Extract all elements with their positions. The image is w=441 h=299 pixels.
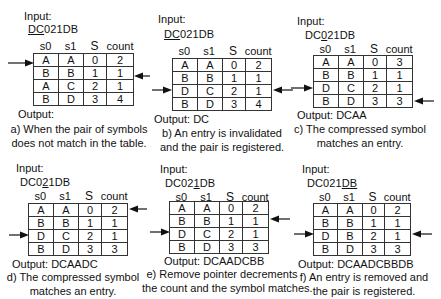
input-string: DC021DB xyxy=(165,177,215,189)
table-row: DC21 xyxy=(170,228,269,241)
table-row: BB11 xyxy=(314,217,411,230)
input-label: Input: xyxy=(160,163,188,175)
table-header: s0 s1 S count xyxy=(172,45,272,57)
caption: a) When the pair of symbols does not mat… xyxy=(8,122,150,150)
table-row: DB21 xyxy=(314,230,411,243)
caption: b) An entry is invalidated and the pair … xyxy=(160,126,284,154)
table-row: BD34 xyxy=(34,93,134,106)
input-label: Input: xyxy=(302,163,330,175)
output-label: Output: DCAADCBBDB xyxy=(298,258,414,270)
table-row: AA02 xyxy=(29,204,128,217)
table-header: s0 s1 S count xyxy=(313,191,411,203)
dictionary-table: AA02 BB11 DC21 BD33 xyxy=(169,201,269,254)
input-current-pair: DC xyxy=(28,23,44,35)
table-row: BD33 xyxy=(170,241,269,254)
input-label: Input: xyxy=(24,10,52,22)
input-string: DC021DB xyxy=(164,28,214,40)
input-string: DC021DB xyxy=(305,29,355,41)
table-row: BD33 xyxy=(314,95,413,108)
table-row: BD33 xyxy=(29,243,128,256)
col-S: S xyxy=(83,40,106,52)
table-row: AA02 xyxy=(173,59,272,72)
col-s1: s1 xyxy=(58,40,83,52)
input-string: DC021DB xyxy=(28,23,78,35)
input-label: Input: xyxy=(16,162,44,174)
table-row: BD33 xyxy=(314,243,411,256)
table-row: DC21 xyxy=(314,82,413,95)
caption: d) The compressed symbol matches an entr… xyxy=(2,270,144,298)
input-current-pair: DB xyxy=(342,177,357,189)
dictionary-table: AA03 BB11 DC21 BD33 xyxy=(313,55,413,108)
table-row: BB11 xyxy=(29,217,128,230)
caption: f) An entry is removed and the pair is r… xyxy=(296,270,432,298)
table-row: DC21 xyxy=(29,230,128,243)
table-header: s0 s1 S count xyxy=(33,40,134,52)
col-s0: s0 xyxy=(33,40,58,52)
output-label: Output: DCAA xyxy=(297,109,367,121)
col-count: count xyxy=(106,40,134,52)
table-row: BB11 xyxy=(170,215,269,228)
dictionary-table: AA02 BB11 DB21 BD33 xyxy=(313,203,411,256)
output-label: Output: DCAADC xyxy=(12,258,98,270)
table-row: BD34 xyxy=(173,98,272,111)
table-row: AA02 xyxy=(170,202,269,215)
input-label: Input: xyxy=(158,13,186,25)
caption: c) The compressed symbol matches an entr… xyxy=(291,122,429,150)
caption: e) Remove pointer decrements the count a… xyxy=(142,267,302,295)
table-row: BB11 xyxy=(314,69,413,82)
table-row: AA03 xyxy=(314,56,413,69)
table-row: AA02 xyxy=(314,204,411,217)
input-current-pair: DC xyxy=(164,28,180,40)
table-row: AC21 xyxy=(34,80,134,93)
table-row: DC21 xyxy=(173,85,272,98)
output-label: Output: xyxy=(18,108,54,120)
table-header: s0 s1 S count xyxy=(28,190,128,202)
output-label: Output: DC xyxy=(154,113,209,125)
dictionary-table: AA02 BB11 DC21 BD34 xyxy=(172,58,272,111)
input-string: DC021DB xyxy=(20,176,70,188)
table-row: AA02 xyxy=(34,54,134,67)
output-label: Output: DCAADCBB xyxy=(164,255,264,267)
table-header: s0 s1 S count xyxy=(313,43,413,55)
input-label: Input: xyxy=(297,15,325,27)
table-row: BB11 xyxy=(173,72,272,85)
dictionary-table: AA02 BB11 DC21 BD33 xyxy=(28,203,128,256)
table-row: BB11 xyxy=(34,67,134,80)
input-post: 021DB xyxy=(44,23,78,35)
input-string: DC021DB xyxy=(307,177,357,189)
dictionary-table: AA02 BB11 AC21 BD34 xyxy=(33,53,134,106)
